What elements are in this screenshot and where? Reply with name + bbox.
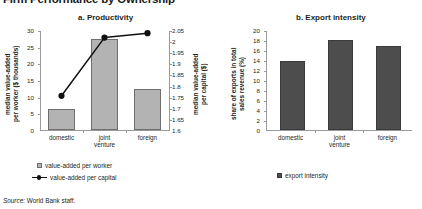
tick-label: 1.75 (172, 95, 184, 101)
axis-tick (264, 71, 267, 72)
tick-label: 30 (27, 28, 34, 34)
panel-a-right-tick-labels: 2.05 2 1.95 1.9 1.85 1.8 1.75 1.7 1.65 1… (172, 28, 190, 138)
axis-tick (264, 91, 267, 92)
line-dot-marker-icon (32, 175, 47, 180)
tick-label: 1.95 (172, 50, 184, 56)
square-swatch-icon (277, 173, 282, 178)
tick-label: 1.65 (172, 117, 184, 123)
bar-foreign-export-intensity (376, 46, 401, 130)
panel-a-plot-area (40, 31, 170, 131)
tick-label: 12 (253, 68, 260, 74)
tick-label: 15 (27, 78, 34, 84)
source-label: Source: (3, 197, 25, 204)
panel-a-legend-item-capital: value-added per capital (32, 174, 116, 181)
tick-label: 16 (253, 48, 260, 54)
tick-label: 0 (257, 128, 260, 134)
tick-label: 6 (257, 98, 260, 104)
tick-label: 1.7 (172, 106, 181, 112)
panel-b-plot-area (266, 31, 412, 131)
panel-b-axis-title: share of exports in total sales revenue … (230, 34, 246, 134)
tick-label: 20 (253, 28, 260, 34)
axis-tick (264, 51, 267, 52)
bar-domestic-export-intensity (280, 61, 305, 130)
panel-a-left-axis-title: median value-added per worker ($ thousan… (4, 34, 20, 134)
panel-a-left-tick-labels: 30 25 20 15 10 5 0 (22, 28, 34, 138)
axis-tick (264, 61, 267, 62)
tick-label: 4 (257, 108, 260, 114)
panel-b-xlabel-joint-venture: joint venture (315, 134, 364, 149)
tick-label: 25 (27, 45, 34, 51)
figure-title: Firm Performance by Ownership (3, 0, 175, 5)
tick-label: 1.6 (172, 128, 181, 134)
panel-b-xlabel-domestic: domestic (266, 134, 315, 141)
bar-joint-venture-export-intensity (328, 40, 353, 130)
tick-label: 1.85 (172, 72, 184, 78)
panel-a-title: a. Productivity (78, 13, 133, 22)
line-marker-domestic (58, 93, 64, 99)
line-marker-foreign (144, 30, 150, 36)
tick-label: 2.05 (172, 28, 184, 34)
tick-label: 10 (27, 95, 34, 101)
axis-tick (264, 101, 267, 102)
tick-label: 14 (253, 58, 260, 64)
legend-label: export intensity (285, 172, 328, 179)
panel-a-xlabel-domestic: domestic (40, 134, 83, 141)
tick-label: 1.8 (172, 84, 181, 90)
panel-a-right-axis-title: median value-added per capital ($) (192, 34, 208, 134)
panel-a-xlabel-foreign: foreign (126, 134, 169, 141)
panel-b-tick-labels: 20 18 16 14 12 10 8 6 4 2 0 (248, 28, 260, 138)
panel-a-xlabel-joint-venture: joint venture (83, 134, 126, 149)
tick-label: 2 (257, 118, 260, 124)
tick-label: 1.9 (172, 61, 181, 67)
tick-label: 18 (253, 38, 260, 44)
tick-label: 8 (257, 88, 260, 94)
tick-label: 2 (172, 39, 175, 45)
axis-tick (264, 31, 267, 32)
figure-root: Firm Performance by Ownership a. Product… (0, 0, 422, 209)
tick-label: 10 (253, 78, 260, 84)
x-axis-tick (363, 130, 364, 133)
value-added-per-capital-line-series (40, 31, 170, 131)
legend-label: value-added per worker (45, 162, 112, 169)
x-axis-tick (315, 130, 316, 133)
panel-a-legend-item-worker: value-added per worker (37, 162, 112, 169)
source-note: Source: World Bank staff. (3, 197, 75, 204)
legend-label: value-added per capital (50, 174, 116, 181)
panel-b-title: b. Export intensity (296, 13, 366, 22)
square-swatch-icon (37, 163, 42, 168)
panel-b-legend-item-export-intensity: export intensity (277, 172, 328, 179)
line-marker-joint-venture (101, 35, 107, 41)
tick-label: 20 (27, 61, 34, 67)
tick-label: 5 (31, 111, 34, 117)
panel-b-xlabel-foreign: foreign (363, 134, 412, 141)
source-text: World Bank staff. (27, 197, 75, 204)
axis-tick (264, 81, 267, 82)
tick-label: 0 (31, 128, 34, 134)
panel-b-baseline (266, 130, 412, 131)
axis-tick (264, 41, 267, 42)
axis-tick (264, 111, 267, 112)
axis-tick (264, 121, 267, 122)
